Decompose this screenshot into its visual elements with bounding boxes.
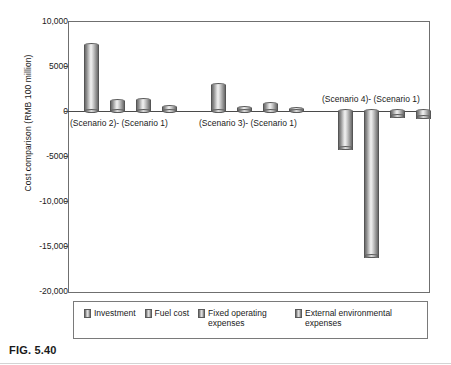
- bar-foot: [110, 109, 125, 113]
- figure-5-40: Cost comparison (RMB 100 million) 10,000…: [0, 0, 451, 365]
- bar-body: [364, 111, 379, 258]
- legend-item-investment: Investment: [84, 308, 136, 318]
- legend-row: Investment Fuel cost Fixed operating exp…: [74, 302, 427, 338]
- legend-label: Fixed operating expenses: [208, 308, 286, 328]
- bar-foot: [338, 146, 353, 150]
- group-label-scenario-2: (Scenario 2)- (Scenario 1): [70, 118, 168, 128]
- y-tick-label-neg10000: -10,000: [24, 197, 68, 206]
- bar-g1-external-environmental-expenses: [162, 107, 177, 111]
- group-label-scenario-4: (Scenario 4)- (Scenario 1): [322, 94, 420, 104]
- bar-g2-investment: [211, 85, 226, 111]
- bar-g2-external-environmental-expenses: [289, 109, 304, 111]
- group-label-scenario-3: (Scenario 3)- (Scenario 1): [199, 118, 297, 128]
- legend-swatch-icon: [198, 309, 205, 318]
- bar-g1-investment: [84, 45, 99, 111]
- legend-swatch-icon: [145, 309, 152, 318]
- y-tick-label-neg15000: -15,000: [24, 242, 68, 251]
- bar-body: [84, 45, 99, 111]
- bar-foot: [136, 109, 151, 113]
- legend-label: External environmental expenses: [305, 308, 411, 328]
- y-tick-label-neg5000: -5000: [24, 152, 68, 161]
- bar-foot: [263, 109, 278, 113]
- legend-item-fixed-operating-expenses: Fixed operating expenses: [198, 308, 286, 328]
- bar-g2-fixed-operating-expenses: [263, 104, 278, 111]
- bar-foot: [364, 254, 379, 258]
- bar-g1-fuel-cost: [110, 101, 125, 111]
- page-rule: [0, 363, 451, 364]
- bar-foot: [390, 114, 405, 118]
- y-tick-label-0: 0: [24, 107, 68, 116]
- bar-foot: [416, 115, 431, 119]
- bar-foot: [237, 109, 252, 113]
- legend-swatch-icon: [295, 309, 302, 318]
- bar-foot: [162, 109, 177, 113]
- bar-body: [211, 85, 226, 111]
- figure-caption: FIG. 5.40: [9, 344, 57, 356]
- y-axis-ticks: 10,000 5000 0 -5000 -10,000 -15,000 -20,…: [16, 0, 68, 365]
- y-tick-label-10000: 10,000: [24, 17, 68, 26]
- bar-foot: [211, 109, 226, 113]
- y-tick-label-5000: 5000: [24, 62, 68, 71]
- bar-foot: [84, 109, 99, 113]
- bar-g2-fuel-cost: [237, 108, 252, 111]
- bar-g3-fuel-cost: [364, 111, 379, 258]
- legend-swatch-icon: [84, 309, 91, 318]
- legend-item-external-environmental-expenses: External environmental expenses: [295, 308, 411, 328]
- bar-body: [338, 111, 353, 150]
- bar-g3-external-environmental-expenses: [416, 111, 431, 119]
- bar-g1-fixed-operating-expenses: [136, 100, 151, 111]
- legend-label: Investment: [94, 308, 136, 318]
- legend-item-fuel-cost: Fuel cost: [145, 308, 190, 318]
- bar-foot: [289, 109, 304, 113]
- legend-label: Fuel cost: [155, 308, 190, 318]
- bar-g3-investment: [338, 111, 353, 150]
- y-tick-label-neg20000: -20,000: [24, 287, 68, 296]
- chart-legend: Investment Fuel cost Fixed operating exp…: [73, 301, 428, 339]
- bar-g3-fixed-operating-expenses: [390, 111, 405, 118]
